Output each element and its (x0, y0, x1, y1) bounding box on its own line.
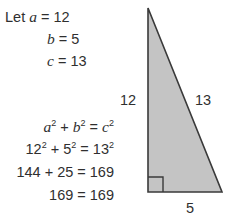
equation-line-evaluated: 144 + 25 = 169 (0, 161, 114, 184)
triangle-figure: 12 13 5 (115, 0, 230, 223)
eq2-op1: + (47, 141, 64, 157)
label-base: 5 (186, 200, 194, 216)
variable-b: b (47, 30, 55, 47)
given-values-block: Let a = 12 b = 5 c = 13 (5, 6, 115, 72)
variable-a: a (29, 8, 37, 25)
eq1-term2: b (73, 118, 81, 135)
equation-block: a2 + b2 = c2 122 + 52 = 132 144 + 25 = 1… (0, 115, 114, 207)
eq2-term3: 13 (93, 141, 109, 157)
eq1-term3: c (102, 118, 109, 135)
eq2-exp3: 2 (109, 140, 114, 150)
equation-line-substituted: 122 + 52 = 132 (0, 138, 114, 161)
eq1-op1: + (56, 119, 73, 135)
given-line-c: c = 13 (5, 50, 115, 72)
variable-c: c (47, 52, 54, 69)
given-b-value: = 5 (55, 31, 80, 47)
triangle-svg (115, 0, 230, 223)
given-line-b: b = 5 (5, 28, 115, 50)
given-c-value: = 13 (54, 53, 87, 69)
eq1-op2: = (86, 119, 103, 135)
pythagorean-theorem-figure: Let a = 12 b = 5 c = 13 a2 + b2 = c2 122… (0, 0, 230, 223)
eq1-exp3: 2 (109, 118, 114, 128)
label-vertical-leg: 12 (120, 92, 136, 108)
given-a-prefix: Let (5, 9, 29, 25)
eq2-op2: = (76, 141, 93, 157)
given-line-a: Let a = 12 (5, 6, 115, 28)
given-a-value: = 12 (37, 9, 70, 25)
equation-line-result: 169 = 169 (0, 184, 114, 207)
equation-line-symbolic: a2 + b2 = c2 (0, 115, 114, 138)
eq2-term1: 12 (26, 141, 42, 157)
label-hypotenuse: 13 (195, 92, 211, 108)
